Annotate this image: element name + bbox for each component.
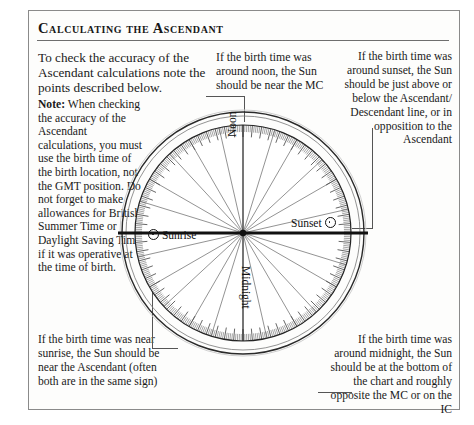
intro-paragraph: To check the accuracy of the Ascendant c… <box>38 50 206 96</box>
label-noon: Noon <box>226 111 238 137</box>
page-title: Calculating the Ascendant <box>38 20 224 37</box>
page-root: Calculating the Ascendant To check the a… <box>0 0 474 425</box>
leader-line-noon-horizontal <box>206 96 245 97</box>
noon-text: Noon <box>226 111 238 137</box>
label-midnight: Midnight <box>240 266 252 309</box>
noon-annotation: If the birth time was around noon, the S… <box>216 50 334 92</box>
sunset-text: Sunset <box>291 217 322 229</box>
sun-icon <box>325 217 336 228</box>
label-sunrise: Sunrise <box>148 229 196 241</box>
label-sunset: Sunset <box>291 217 336 229</box>
midnight-text: Midnight <box>240 266 252 309</box>
leader-line-midnight-horizontal <box>318 392 352 393</box>
note-label: Note: <box>38 98 65 111</box>
sun-icon <box>148 229 159 240</box>
title-divider <box>37 40 449 41</box>
sunrise-text: Sunrise <box>162 229 197 241</box>
leader-line-sunset-vertical <box>372 128 373 229</box>
